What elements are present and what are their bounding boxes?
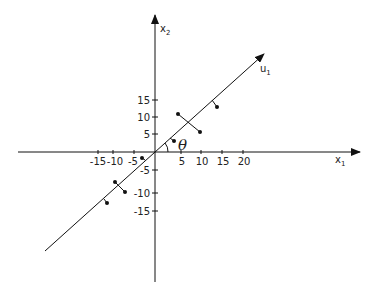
- y-tick-label: -10: [134, 188, 150, 199]
- x-tick-label: 15: [217, 156, 230, 167]
- y-tick-label: 15: [137, 95, 150, 106]
- theta-label: θ: [178, 136, 187, 154]
- x-tick-label: -10: [107, 156, 123, 167]
- x-tick-label: -15: [90, 156, 106, 167]
- u1-axis-label: u1: [260, 63, 271, 77]
- y-tick-label: 5: [144, 129, 150, 140]
- angle-arc: [165, 143, 168, 152]
- y-tick-label: -15: [134, 206, 150, 217]
- x2-axis-label: x2: [160, 23, 170, 37]
- data-points: [105, 105, 219, 205]
- y-tick-label: 10: [137, 112, 150, 123]
- x1-axis-label: x1: [335, 154, 345, 168]
- pca-diagram: -15 -10 -5 5 10 15 20 15 10 5 -5 -10 -15…: [0, 0, 385, 291]
- x-tick-label: -5: [128, 156, 138, 167]
- x-tick-label: 5: [179, 156, 185, 167]
- y-tick-label: -5: [140, 165, 150, 176]
- x-tick-label: 20: [238, 156, 251, 167]
- x-tick-label: 10: [196, 156, 209, 167]
